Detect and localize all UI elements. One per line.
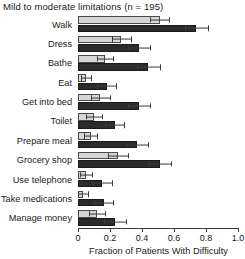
bar-with-error: [78, 36, 238, 44]
error-bar-cap: [116, 84, 117, 89]
bar-with-error: [78, 102, 238, 110]
error-bar-cap: [148, 161, 149, 166]
bar-group: [78, 112, 238, 131]
error-bar-line: [128, 47, 150, 48]
error-bar-line: [137, 67, 159, 68]
y-axis-label: Walk: [0, 15, 72, 34]
error-bar-line: [89, 213, 105, 214]
bar-with-error: [78, 180, 238, 188]
error-bar-cap: [128, 103, 129, 108]
bar-with-error: [78, 113, 238, 121]
error-bar-cap: [97, 84, 98, 89]
y-axis-label: Take medications: [0, 189, 72, 208]
bar-with-error: [78, 152, 238, 160]
error-bar-cap: [81, 75, 82, 80]
error-bar-cap: [150, 103, 151, 108]
error-bar-cap: [160, 64, 161, 69]
error-bar-line: [92, 183, 111, 184]
error-bar-line: [91, 97, 110, 98]
y-axis-category-labels: WalkDressBatheEatGet into bedToiletPrepa…: [0, 15, 75, 228]
x-axis-line: [78, 228, 239, 229]
bar: [78, 25, 196, 33]
error-bar-cap: [124, 123, 125, 128]
error-bar-line: [81, 78, 91, 79]
error-bar-cap: [84, 134, 85, 139]
error-bar-cap: [108, 153, 109, 158]
error-bar-cap: [97, 134, 98, 139]
error-bar-cap: [112, 181, 113, 186]
error-bar-cap: [148, 142, 149, 147]
y-axis-label: Grocery shop: [0, 151, 72, 170]
error-bar-cap: [171, 161, 172, 166]
y-axis-label: Manage money: [0, 209, 72, 228]
error-bar-cap: [78, 192, 79, 197]
error-bar-cap: [128, 45, 129, 50]
x-tick: [110, 228, 111, 232]
error-bar-line: [150, 20, 169, 21]
error-bar-line: [94, 202, 113, 203]
error-bar-line: [97, 86, 116, 87]
bar-group: [78, 92, 238, 111]
bar-with-error: [78, 132, 238, 140]
x-tick-label: 0.8: [200, 233, 213, 243]
error-bar-line: [104, 222, 126, 223]
error-bar-cap: [112, 37, 113, 42]
plot-area: [78, 15, 238, 228]
bar-with-error: [78, 63, 238, 71]
error-bar-cap: [105, 211, 106, 216]
x-tick: [78, 228, 79, 232]
error-bar-cap: [137, 64, 138, 69]
error-bar-line: [80, 175, 93, 176]
bar-with-error: [78, 141, 238, 149]
error-bar-cap: [94, 200, 95, 205]
error-bar-cap: [185, 26, 186, 31]
error-bar-cap: [80, 172, 81, 177]
error-bar-cap: [88, 192, 89, 197]
error-bar-cap: [105, 123, 106, 128]
error-bar-line: [185, 28, 207, 29]
y-axis-label: Dress: [0, 34, 72, 53]
error-bar-line: [112, 39, 131, 40]
y-axis-label: Toilet: [0, 112, 72, 131]
bar-with-error: [78, 55, 238, 63]
error-bar-line: [78, 194, 88, 195]
x-tick-label: 0: [75, 233, 80, 243]
bar-with-error: [78, 199, 238, 207]
error-bar-cap: [102, 114, 103, 119]
error-bar-cap: [104, 219, 105, 224]
error-bar-cap: [91, 75, 92, 80]
error-bar-cap: [169, 17, 170, 22]
bar: [78, 160, 160, 168]
error-bar-cap: [208, 26, 209, 31]
x-tick: [238, 228, 239, 232]
bar-group: [78, 15, 238, 34]
bar-group: [78, 209, 238, 228]
error-bar-cap: [150, 45, 151, 50]
x-tick: [174, 228, 175, 232]
bar-group: [78, 170, 238, 189]
y-axis-label: Bathe: [0, 54, 72, 73]
error-bar-line: [86, 116, 102, 117]
bar-with-error: [78, 74, 238, 82]
error-bar-cap: [97, 56, 98, 61]
y-axis-label: Eat: [0, 73, 72, 92]
y-axis-label: Use telephone: [0, 170, 72, 189]
chart-title: Mild to moderate limitations (n = 195): [3, 1, 163, 12]
error-bar-line: [97, 58, 113, 59]
error-bar-line: [148, 163, 170, 164]
error-bar-cap: [92, 172, 93, 177]
bar-group: [78, 73, 238, 92]
x-tick: [142, 228, 143, 232]
chart-container: Mild to moderate limitations (n = 195) W…: [0, 0, 245, 259]
error-bar-cap: [128, 153, 129, 158]
error-bar-cap: [126, 219, 127, 224]
bar-with-error: [78, 94, 238, 102]
y-axis-label: Prepare meal: [0, 131, 72, 150]
bar-with-error: [78, 191, 238, 199]
error-bar-cap: [89, 211, 90, 216]
bar-with-error: [78, 210, 238, 218]
bar-with-error: [78, 171, 238, 179]
bar-with-error: [78, 160, 238, 168]
error-bar-cap: [150, 17, 151, 22]
error-bar-cap: [113, 56, 114, 61]
